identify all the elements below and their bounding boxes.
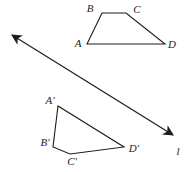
- vertex-labels: ABCDA′B′C′D′l: [40, 2, 179, 167]
- vertex-label-b: B: [87, 2, 94, 14]
- vertex-label-c: C: [133, 3, 141, 15]
- shape-trapezoid-abcd: [87, 13, 165, 44]
- reflection-line: [12, 35, 173, 135]
- vertex-label-a: A: [74, 37, 82, 49]
- vertex-label-d-prime: D′: [128, 142, 140, 154]
- vertex-label-l: l: [176, 145, 179, 157]
- vertex-label-b-prime: B′: [40, 136, 50, 148]
- shape-trapezoid-a-prime: [53, 106, 124, 154]
- geometry-figure: ABCDA′B′C′D′l: [0, 0, 184, 172]
- vertex-label-d: D: [167, 38, 176, 50]
- diagram-canvas: ABCDA′B′C′D′l: [0, 0, 184, 172]
- vertex-label-c-prime: C′: [67, 155, 77, 167]
- vertex-label-a-prime: A′: [44, 94, 55, 106]
